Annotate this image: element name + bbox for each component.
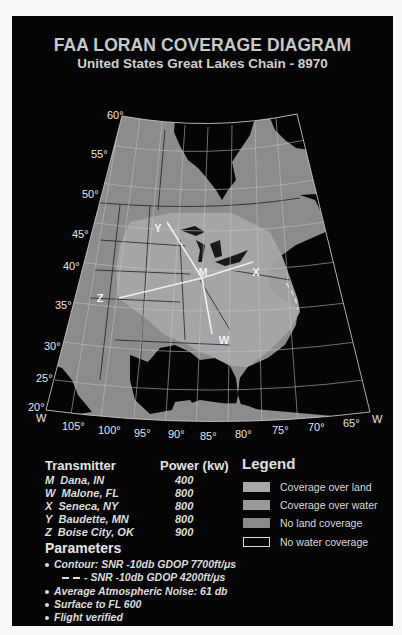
transmitter-name: Seneca, NY bbox=[58, 500, 118, 512]
legend-item-coverage-land: Coverage over land bbox=[243, 481, 372, 493]
swatch-coverage-land bbox=[243, 482, 270, 492]
swatch-coverage-water bbox=[243, 500, 270, 510]
legend-item-coverage-water: Coverage over water bbox=[243, 499, 377, 511]
lon-label: 70° bbox=[308, 421, 325, 433]
lon-label: 100° bbox=[98, 424, 121, 436]
table-row: W Malone, FL bbox=[45, 487, 119, 499]
lat-label: 45° bbox=[72, 228, 89, 240]
transmitter-code: X bbox=[45, 500, 52, 512]
transmitter-code: Y bbox=[45, 513, 52, 525]
lon-label: 95° bbox=[134, 427, 151, 439]
transmitter-marker-m: M bbox=[198, 266, 207, 278]
bullet-icon bbox=[45, 603, 49, 607]
lat-label: 50° bbox=[82, 188, 99, 200]
transmitter-power: 800 bbox=[175, 513, 193, 525]
parameter-item: Surface to FL 600 bbox=[45, 598, 141, 610]
transmitter-header: Transmitter bbox=[45, 458, 116, 473]
parameters-title: Parameters bbox=[45, 540, 121, 556]
parameter-text: - SNR -10db GDOP 4200ft/μs bbox=[84, 571, 225, 583]
west-label-right: W bbox=[372, 413, 383, 425]
transmitter-power: 800 bbox=[175, 487, 193, 499]
lat-label: 25° bbox=[36, 372, 53, 384]
table-row: Y Baudette, MN bbox=[45, 513, 129, 525]
lon-label: 90° bbox=[168, 428, 185, 440]
transmitter-power: 900 bbox=[175, 526, 193, 538]
parameter-text: Contour: SNR -10db GDOP 7700ft/μs bbox=[54, 558, 236, 570]
transmitter-name: Baudette, MN bbox=[58, 513, 128, 525]
lat-label: 60° bbox=[107, 109, 124, 121]
parameter-item: Contour: SNR -10db GDOP 7700ft/μs bbox=[45, 558, 236, 570]
transmitter-name: Boise City, OK bbox=[58, 526, 134, 538]
swatch-no-water-coverage bbox=[243, 537, 270, 547]
lon-label: 80° bbox=[235, 428, 252, 440]
parameter-text: Average Atmospheric Noise: 61 db bbox=[54, 585, 228, 597]
parameter-item: Average Atmospheric Noise: 61 db bbox=[45, 585, 228, 597]
transmitter-code: M bbox=[45, 474, 54, 486]
lon-label: 75° bbox=[272, 424, 289, 436]
legend-title: Legend bbox=[242, 455, 295, 472]
parameter-item: - SNR -10db GDOP 4200ft/μs bbox=[62, 571, 225, 583]
table-row: Z Boise City, OK bbox=[45, 526, 134, 538]
table-row: X Seneca, NY bbox=[45, 500, 118, 512]
transmitter-name: Malone, FL bbox=[62, 487, 119, 499]
parameter-text: Flight verified bbox=[54, 611, 123, 623]
lon-label: 85° bbox=[200, 430, 217, 442]
dash-icon bbox=[73, 577, 80, 579]
lat-label: 30° bbox=[44, 340, 61, 352]
transmitter-code: Z bbox=[45, 526, 52, 538]
table-row: M Dana, IN bbox=[45, 474, 104, 486]
power-header: Power (kw) bbox=[160, 458, 229, 473]
bullet-icon bbox=[45, 616, 49, 620]
legend-item-no-land-coverage: No land coverage bbox=[243, 517, 362, 529]
lat-label: 55° bbox=[91, 148, 108, 160]
legend-label: Coverage over water bbox=[280, 499, 377, 511]
transmitter-marker-w: W bbox=[219, 334, 230, 346]
legend-label: Coverage over land bbox=[280, 481, 372, 493]
lat-label: 40° bbox=[63, 260, 80, 272]
legend-label: No water coverage bbox=[280, 536, 368, 548]
dash-icon bbox=[62, 577, 69, 579]
legend-item-no-water-coverage: No water coverage bbox=[243, 536, 368, 548]
bullet-icon bbox=[45, 563, 49, 567]
legend-label: No land coverage bbox=[280, 517, 362, 529]
lat-label: 35° bbox=[55, 299, 72, 311]
transmitter-power: 800 bbox=[175, 500, 193, 512]
transmitter-code: W bbox=[45, 487, 55, 499]
transmitter-marker-z: Z bbox=[97, 292, 104, 304]
lon-label: 65° bbox=[343, 417, 360, 429]
swatch-no-land-coverage bbox=[243, 518, 270, 528]
lon-label: 105° bbox=[62, 420, 85, 432]
transmitter-marker-y: Y bbox=[154, 222, 162, 234]
bullet-icon bbox=[45, 590, 49, 594]
parameter-text: Surface to FL 600 bbox=[54, 598, 141, 610]
west-label-left: W bbox=[36, 412, 47, 424]
transmitter-name: Dana, IN bbox=[60, 474, 104, 486]
parameter-item: Flight verified bbox=[45, 611, 123, 623]
transmitter-power: 400 bbox=[175, 474, 193, 486]
transmitter-marker-x: X bbox=[252, 266, 260, 278]
